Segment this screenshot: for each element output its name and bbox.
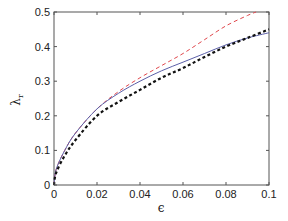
y-tick-label: 0.5 <box>35 6 50 18</box>
y-tick-label: 0.3 <box>35 75 50 87</box>
x-tick-label: 0.08 <box>215 188 236 200</box>
plot-area <box>54 12 269 185</box>
y-tick-label: 0.4 <box>35 41 50 53</box>
y-tick-label: 0.2 <box>35 110 50 122</box>
plot-frame <box>54 12 269 185</box>
x-axis-label: ϵ <box>158 201 165 215</box>
x-tick-label: 0.06 <box>172 188 193 200</box>
x-tick-label: 0.1 <box>261 188 276 200</box>
y-tick-label: 0 <box>44 179 50 191</box>
line-chart: 00.020.040.060.080.100.10.20.30.40.5 ϵ λ… <box>0 0 288 221</box>
x-tick-label: 0.02 <box>86 188 107 200</box>
x-tick-label: 0.04 <box>129 188 150 200</box>
y-axis-label: λr <box>9 94 25 106</box>
y-tick-label: 0.1 <box>35 144 50 156</box>
x-tick-label: 0 <box>51 188 57 200</box>
